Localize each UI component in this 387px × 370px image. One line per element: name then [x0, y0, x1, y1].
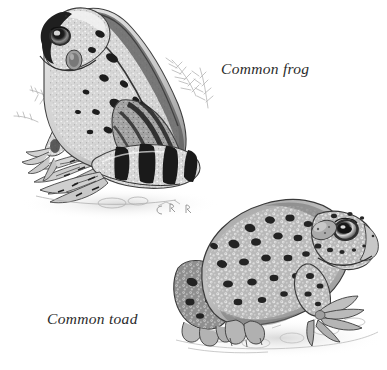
caption-common-frog: Common frog [221, 60, 309, 78]
common-toad-drawing [168, 172, 387, 367]
frog-eye [49, 26, 71, 46]
illustration-plate: Common frog Common toad [0, 0, 387, 370]
figure-common-toad [168, 172, 387, 367]
caption-common-toad: Common toad [47, 310, 138, 328]
frog-tympanum [66, 50, 82, 70]
